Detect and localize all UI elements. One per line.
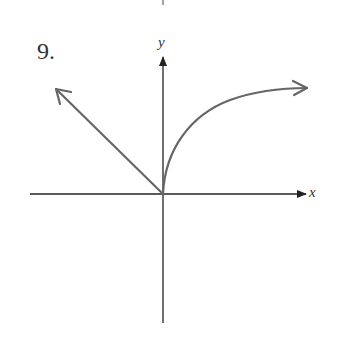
graph [0, 0, 338, 350]
x-axis-label: x [309, 184, 316, 201]
left-ray [56, 89, 163, 194]
y-axis-label: y [158, 34, 165, 51]
right-curve [163, 81, 307, 194]
